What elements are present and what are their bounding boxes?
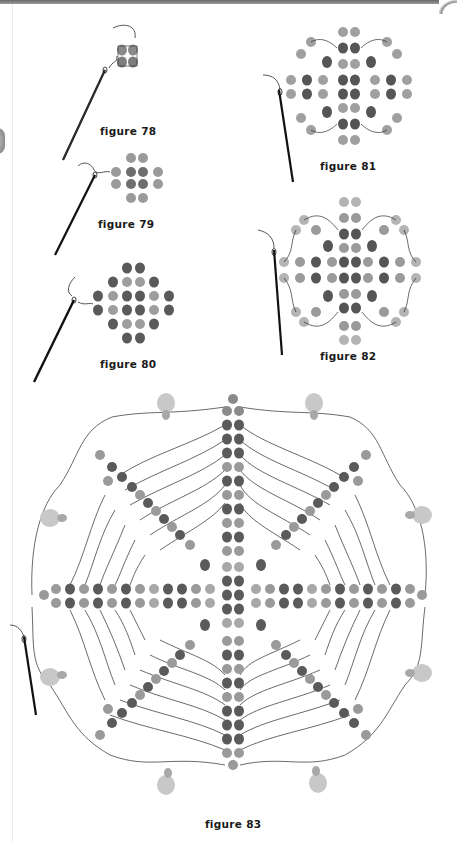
needle (10, 625, 36, 715)
horizontal-spoke (39, 559, 427, 631)
figure-80-caption: figure 80 (100, 358, 156, 370)
binding-ornament (0, 128, 5, 154)
figure-81-caption: figure 81 (320, 160, 376, 172)
bead-group (117, 45, 138, 68)
figure-82-caption: figure 82 (320, 350, 376, 362)
page-curl (439, 0, 457, 14)
figure-83-illustration (0, 385, 457, 810)
figure-79-caption: figure 79 (98, 218, 154, 230)
page-top-edge (0, 0, 457, 4)
figure-82-illustration (250, 190, 455, 360)
figure-78-caption: figure 78 (100, 125, 156, 137)
figure-78-illustration (55, 20, 165, 170)
diagonal-spokes (95, 450, 371, 740)
figure-83-caption: figure 83 (205, 818, 261, 830)
figure-79-illustration (50, 150, 180, 260)
